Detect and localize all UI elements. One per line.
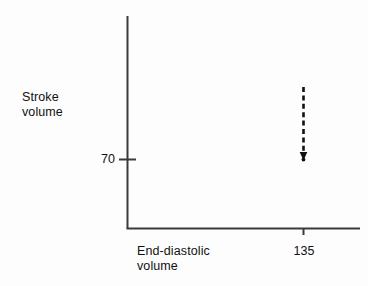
y-axis-label-line2: volume bbox=[22, 105, 63, 119]
data-point-marker bbox=[302, 158, 306, 162]
y-tick-label-70: 70 bbox=[78, 152, 115, 167]
x-axis-label-line1: End-diastolic bbox=[137, 244, 210, 258]
x-axis-label-line2: volume bbox=[137, 259, 178, 273]
y-axis-label: Strokevolume bbox=[22, 90, 63, 120]
chart-canvas: Strokevolume End-diastolicvolume 70 135 bbox=[0, 0, 368, 286]
y-axis-label-line1: Stroke bbox=[22, 90, 59, 104]
x-axis-label: End-diastolicvolume bbox=[137, 244, 210, 274]
x-tick-label-135: 135 bbox=[281, 244, 327, 259]
